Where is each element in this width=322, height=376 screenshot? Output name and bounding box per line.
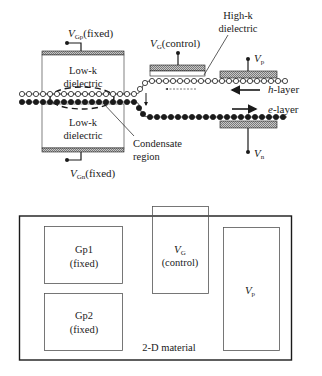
gp1-label-line2: (fixed) xyxy=(70,258,99,270)
top-fixed-gate: VGp(fixed) xyxy=(42,27,124,55)
p-contact: Vp xyxy=(220,52,277,78)
gp1-gate-pad xyxy=(45,227,123,284)
p-contact-terminal-icon xyxy=(246,57,250,61)
e-layer-label: e-layer xyxy=(268,103,299,115)
gp2-label-line1: Gp2 xyxy=(75,310,93,321)
top-gate-lead xyxy=(67,43,81,51)
top-dielectric-line1: Low-k xyxy=(69,65,98,76)
high-k-label-line2: dielectric xyxy=(218,23,257,34)
cross-section-view: VGp(fixed) Low-k dielectric Low-k dielec… xyxy=(19,10,299,181)
high-k-label-line1: High-k xyxy=(223,10,253,21)
bottom-dielectric-line2: dielectric xyxy=(63,130,102,141)
h-layer-label: h-layer xyxy=(268,83,299,95)
top-gate-electrode xyxy=(42,51,124,55)
bottom-gate-terminal-icon xyxy=(65,158,69,162)
p-contact-electrode xyxy=(220,71,277,78)
plan-view: Gp1 (fixed) Gp2 (fixed) VG (control) Vp … xyxy=(20,207,292,361)
high-k-dielectric-layer xyxy=(150,71,205,76)
bottom-gate-electrode xyxy=(42,148,124,152)
top-gate-label: VGp(fixed) xyxy=(68,27,114,41)
n-contact-label: Vn xyxy=(254,147,265,161)
control-gate-electrode xyxy=(150,65,205,71)
top-gate-terminal-icon xyxy=(65,41,69,45)
control-gate: VG(control) xyxy=(150,37,205,76)
bottom-gate-label: VGn(fixed) xyxy=(70,167,116,181)
2d-material-label: 2-D material xyxy=(142,342,195,353)
bottom-fixed-gate: VGn(fixed) xyxy=(42,148,124,181)
gp2-gate-pad xyxy=(45,294,123,351)
p-contact-label: Vp xyxy=(254,52,265,66)
vg-plan-label: VG xyxy=(174,243,186,257)
vg-plan-label-line2: (control) xyxy=(162,257,199,269)
bottom-gate-lead xyxy=(67,152,81,160)
bottom-dielectric-line1: Low-k xyxy=(69,117,98,128)
n-contact-terminal-icon xyxy=(246,150,250,154)
condensate-label-line1: Condensate xyxy=(133,138,182,149)
condensate-label-line2: region xyxy=(133,151,161,162)
gp1-label-line1: Gp1 xyxy=(75,244,93,255)
bilayer-device-diagram: VGp(fixed) Low-k dielectric Low-k dielec… xyxy=(0,0,322,376)
high-k-leader-line xyxy=(204,35,228,75)
gp2-label-line2: (fixed) xyxy=(70,324,99,336)
control-gate-label: VG(control) xyxy=(150,37,201,51)
n-contact-electrode xyxy=(220,121,277,128)
control-gate-terminal-icon xyxy=(176,51,180,55)
n-contact: Vn xyxy=(220,121,277,161)
